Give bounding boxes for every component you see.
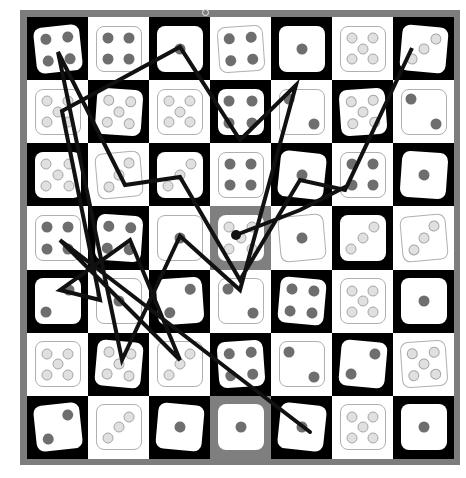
die-face-5 xyxy=(35,152,81,198)
die-face-4 xyxy=(96,26,142,72)
pip-icon xyxy=(346,285,357,296)
frame-marker-icon xyxy=(202,9,209,16)
pip-icon xyxy=(284,346,295,357)
pip-icon xyxy=(429,368,441,380)
pip-icon xyxy=(246,180,257,191)
die-face-3 xyxy=(157,152,203,198)
pip-icon xyxy=(63,222,74,233)
board-cell[interactable] xyxy=(210,143,271,206)
pip-icon xyxy=(41,117,52,128)
die-face-3 xyxy=(340,215,386,261)
board-cell[interactable] xyxy=(332,143,393,206)
pip-icon xyxy=(345,96,357,108)
pip-icon xyxy=(64,52,76,64)
pip-icon xyxy=(103,180,115,192)
board-cell[interactable] xyxy=(393,143,454,206)
pip-icon xyxy=(235,232,246,243)
pip-icon xyxy=(113,169,125,181)
board-cell[interactable] xyxy=(332,396,393,459)
board-cell[interactable] xyxy=(393,206,454,269)
pip-icon xyxy=(124,411,135,422)
pip-icon xyxy=(245,347,257,359)
pip-icon xyxy=(224,221,235,232)
pip-icon xyxy=(63,158,74,169)
board-cell[interactable] xyxy=(88,143,149,206)
board-cell[interactable] xyxy=(271,270,332,333)
pip-icon xyxy=(113,296,124,307)
board-cell[interactable] xyxy=(332,206,393,269)
pip-icon xyxy=(63,285,74,296)
pip-icon xyxy=(295,421,307,433)
board-cell[interactable] xyxy=(271,17,332,80)
board-cell[interactable] xyxy=(27,80,88,143)
board-cell[interactable] xyxy=(27,396,88,459)
die-face-1 xyxy=(157,215,203,261)
board-cell[interactable] xyxy=(210,270,271,333)
pip-icon xyxy=(235,422,246,433)
board-cell[interactable] xyxy=(393,270,454,333)
pip-icon xyxy=(101,368,113,380)
pip-icon xyxy=(174,359,185,370)
die-face-4 xyxy=(218,152,264,198)
pip-icon xyxy=(123,244,135,256)
pip-icon xyxy=(174,43,185,54)
die-face-1 xyxy=(279,26,325,72)
pip-icon xyxy=(63,348,74,359)
pip-icon xyxy=(368,411,379,422)
board-cell[interactable] xyxy=(27,143,88,206)
board-cell[interactable] xyxy=(88,17,149,80)
board-cell[interactable] xyxy=(271,333,332,396)
board-cell[interactable] xyxy=(210,333,271,396)
board-cell[interactable] xyxy=(149,17,210,80)
pip-icon xyxy=(296,43,307,54)
board-cell[interactable] xyxy=(149,143,210,206)
board-cell[interactable] xyxy=(149,333,210,396)
board-cell[interactable] xyxy=(393,80,454,143)
pip-icon xyxy=(296,232,308,244)
board-cell[interactable] xyxy=(27,206,88,269)
board-cell[interactable] xyxy=(149,206,210,269)
pip-icon xyxy=(123,118,135,130)
board-cell[interactable] xyxy=(332,270,393,333)
board-cell[interactable] xyxy=(393,333,454,396)
board-cell[interactable] xyxy=(393,17,454,80)
board-cell[interactable] xyxy=(149,80,210,143)
board-cell[interactable] xyxy=(88,333,149,396)
die-face-1 xyxy=(277,213,327,263)
die-face-5 xyxy=(157,89,203,135)
board-cell[interactable] xyxy=(271,206,332,269)
die-face-5 xyxy=(399,340,448,389)
board-cell[interactable] xyxy=(88,270,149,333)
board-cell[interactable] xyxy=(88,396,149,459)
board-cell[interactable] xyxy=(27,270,88,333)
board-cell[interactable] xyxy=(271,80,332,143)
pip-icon xyxy=(346,54,357,65)
board-cell[interactable] xyxy=(149,396,210,459)
board-cell[interactable] xyxy=(210,17,271,80)
board-cell[interactable] xyxy=(393,396,454,459)
pip-icon xyxy=(368,306,379,317)
pip-icon xyxy=(346,159,357,170)
pip-icon xyxy=(174,106,185,117)
board-cell[interactable] xyxy=(210,206,271,269)
board-cell[interactable] xyxy=(149,270,210,333)
board-cell[interactable] xyxy=(88,80,149,143)
pip-icon xyxy=(247,308,258,319)
pip-icon xyxy=(124,222,136,234)
pip-icon xyxy=(61,409,73,421)
die-face-4 xyxy=(94,213,143,262)
die-face-1 xyxy=(399,150,448,199)
board-cell[interactable] xyxy=(271,143,332,206)
board-cell[interactable] xyxy=(332,80,393,143)
board-cell[interactable] xyxy=(27,17,88,80)
board-cell[interactable] xyxy=(332,333,393,396)
pip-icon xyxy=(285,283,297,295)
die-face-2 xyxy=(401,89,447,135)
board-cell[interactable] xyxy=(210,396,271,459)
board-cell[interactable] xyxy=(210,80,271,143)
board-cell[interactable] xyxy=(332,17,393,80)
board-cell[interactable] xyxy=(27,333,88,396)
board-cell[interactable] xyxy=(271,396,332,459)
board-cell[interactable] xyxy=(88,206,149,269)
pip-icon xyxy=(295,169,307,181)
